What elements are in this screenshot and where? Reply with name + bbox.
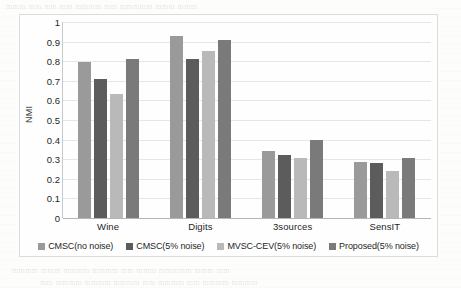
legend-item[interactable]: MVSC-CEV(5% noise) (217, 241, 316, 251)
bar[interactable] (202, 51, 215, 218)
y-axis-tick-label: 0.8 (47, 56, 60, 67)
bar[interactable] (402, 158, 415, 218)
bar[interactable] (126, 59, 139, 218)
bar[interactable] (278, 155, 291, 218)
x-axis-label: Wine (62, 221, 154, 232)
bar[interactable] (170, 36, 183, 218)
x-axis-label: 3sources (247, 221, 339, 232)
bar-group (339, 22, 431, 218)
legend-label: MVSC-CEV(5% noise) (227, 241, 316, 251)
bar[interactable] (186, 59, 199, 218)
legend-swatch-icon (329, 243, 336, 250)
y-axis-tick-label: 1 (55, 17, 60, 28)
bar[interactable] (262, 151, 275, 218)
bar-group (62, 22, 154, 218)
bar[interactable] (310, 140, 323, 218)
background-ghost-text: mmm mm mm mm mmmm mm mmmmm mmm mmm (6, 2, 197, 11)
background-ghost-text: mm mmmm mmmm mmmm mm mmmm mm mmmm mmmm (40, 278, 258, 287)
legend-item[interactable]: CMSC(5% noise) (126, 241, 204, 251)
y-axis-tick-label: 0 (55, 213, 60, 224)
bar[interactable] (110, 94, 123, 218)
x-axis-label: Digits (154, 221, 246, 232)
x-axis-label: SensIT (339, 221, 431, 232)
legend-item[interactable]: CMSC(no noise) (38, 241, 113, 251)
legend-swatch-icon (126, 243, 133, 250)
y-axis-tick-label: 0.2 (47, 173, 60, 184)
bar-groups (62, 22, 431, 218)
background-ghost-text: mmmm mmm mmmm mmmm mm mmm mmmmm mmm mm (12, 266, 230, 275)
legend-swatch-icon (217, 243, 224, 250)
bar-group (247, 22, 339, 218)
y-axis-title: NMI (24, 109, 34, 123)
chart-legend: CMSC(no noise)CMSC(5% noise)MVSC-CEV(5% … (26, 241, 431, 251)
y-axis-tick-label: 0.5 (47, 115, 60, 126)
bar[interactable] (370, 163, 383, 218)
chart-figure: NMI 10.90.80.70.60.50.40.30.20.10 WineDi… (19, 14, 438, 257)
bar[interactable] (218, 40, 231, 218)
plot-area: NMI 10.90.80.70.60.50.40.30.20.10 WineDi… (20, 15, 437, 256)
y-axis-tick-label: 0.9 (47, 36, 60, 47)
legend-label: Proposed(5% noise) (339, 241, 419, 251)
bar[interactable] (386, 171, 399, 218)
bar[interactable] (294, 158, 307, 218)
axis-baseline (63, 218, 431, 219)
y-axis-tick-label: 0.1 (47, 193, 60, 204)
legend-label: CMSC(5% noise) (136, 241, 204, 251)
bar[interactable] (354, 162, 367, 218)
bar-group (154, 22, 246, 218)
y-axis-tick-label: 0.7 (47, 75, 60, 86)
y-axis-ticks: 10.90.80.70.60.50.40.30.20.10 (34, 22, 60, 218)
bar[interactable] (78, 62, 91, 218)
legend-label: CMSC(no noise) (48, 241, 113, 251)
y-axis-tick-label: 0.6 (47, 95, 60, 106)
y-axis-tick-label: 0.3 (47, 154, 60, 165)
x-axis-labels: WineDigits3sourcesSensIT (62, 221, 431, 232)
y-axis-tick-label: 0.4 (47, 134, 60, 145)
legend-item[interactable]: Proposed(5% noise) (329, 241, 419, 251)
bar[interactable] (94, 79, 107, 218)
legend-swatch-icon (38, 243, 45, 250)
